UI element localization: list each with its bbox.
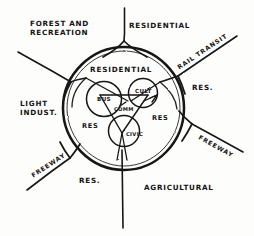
diagram-linework — [0, 0, 254, 236]
node-connector-triangle — [100, 95, 148, 133]
core-ring-inner — [67, 51, 180, 166]
corridor-lines — [18, 8, 243, 228]
core-flow-arrows — [86, 78, 160, 160]
radial-city-land-use-diagram: FOREST ANDRECREATION RESIDENTIAL RES. LI… — [0, 0, 254, 236]
business-node-circle — [87, 82, 122, 117]
core-ring — [63, 47, 184, 170]
